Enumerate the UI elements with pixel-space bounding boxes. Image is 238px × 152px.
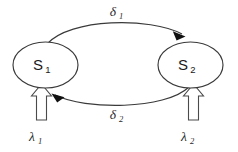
diagram-canvas: S 1 S 2 δ 1 δ 2 λ 1 λ 2 xyxy=(0,0,238,152)
label-lambda2-subscript: 2 xyxy=(190,136,195,146)
node-s1-label: S xyxy=(33,56,43,73)
state-transition-diagram: S 1 S 2 δ 1 δ 2 λ 1 λ 2 xyxy=(0,0,238,152)
edge-delta2 xyxy=(52,87,190,105)
label-delta2-symbol: δ xyxy=(110,107,117,122)
node-s1[interactable]: S 1 xyxy=(13,42,78,88)
label-lambda2: λ 2 xyxy=(180,129,195,146)
label-lambda1-subscript: 1 xyxy=(38,136,42,146)
label-delta1-subscript: 1 xyxy=(119,11,123,21)
label-lambda1: λ 1 xyxy=(28,129,42,146)
label-lambda2-symbol: λ xyxy=(180,129,187,144)
edge-delta1-curve xyxy=(47,23,182,44)
node-s2-subscript: 2 xyxy=(190,64,195,75)
edge-delta1 xyxy=(47,23,186,44)
label-delta2-subscript: 2 xyxy=(119,114,124,124)
edge-delta2-arrowhead xyxy=(52,93,65,102)
node-s1-subscript: 1 xyxy=(45,64,50,75)
label-lambda1-symbol: λ xyxy=(28,129,35,144)
label-delta1-symbol: δ xyxy=(110,4,117,19)
label-delta2: δ 2 xyxy=(110,107,124,124)
node-s2[interactable]: S 2 xyxy=(158,42,223,88)
lambda1-block-arrow-icon xyxy=(32,84,52,120)
edge-delta2-curve xyxy=(55,87,189,105)
node-s2-label: S xyxy=(178,56,188,73)
label-delta1: δ 1 xyxy=(110,4,123,21)
